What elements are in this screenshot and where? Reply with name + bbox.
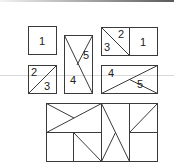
piece-label: 5	[137, 78, 143, 90]
piece-square-1: 1	[29, 27, 57, 55]
piece-rect-4-5: 4 5	[102, 66, 158, 94]
piece-label: 1	[39, 35, 45, 47]
piece-label: 2	[118, 28, 124, 40]
composite-rectangle	[47, 104, 158, 162]
piece-label: 2	[31, 66, 37, 78]
piece-tall-4-5: 5 4	[65, 36, 93, 94]
piece-label: 4	[108, 67, 114, 79]
piece-rect-3-2-1: 3 2 1	[102, 28, 158, 56]
piece-label: 3	[104, 41, 110, 53]
piece-label: 1	[140, 36, 146, 48]
piece-square-2-3: 2 3	[29, 66, 57, 94]
piece-label: 3	[44, 80, 50, 92]
puzzle-diagram: 1 2 3 5 4 3 2 1 4 5	[0, 0, 174, 164]
piece-label: 4	[70, 74, 76, 86]
piece-label: 5	[83, 49, 89, 61]
